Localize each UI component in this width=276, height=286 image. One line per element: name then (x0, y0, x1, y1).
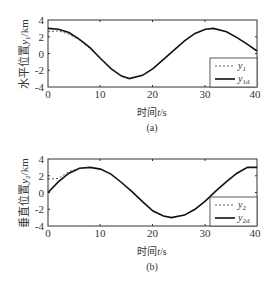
ytick-label: 4 (39, 153, 45, 165)
plot-a-ylabel: 水平位置y1/km (17, 19, 32, 89)
xtick-label: 20 (147, 227, 159, 239)
plot-b-ylabel: 垂直位置y2/km (17, 158, 32, 228)
plot-a-xlabel: 时间t/s (137, 106, 167, 118)
xtick-label: 10 (95, 88, 107, 100)
xtick-label: 30 (200, 88, 212, 100)
legend-box (210, 58, 257, 87)
plot-a: 4 2 0 -2 -4 0 10 20 30 40 (17, 14, 261, 134)
xtick-label: 20 (147, 88, 159, 100)
plot-b-xlabel: 时间t/s (137, 245, 167, 257)
xtick-label: 0 (45, 88, 51, 100)
ytick-label: -4 (35, 81, 45, 93)
figure: 4 2 0 -2 -4 0 10 20 30 40 (0, 0, 276, 286)
legend-box (210, 197, 257, 226)
ytick-label: -2 (35, 64, 44, 76)
ytick-label: 0 (39, 187, 45, 199)
xtick-label: 40 (250, 88, 262, 100)
ytick-label: 2 (39, 170, 45, 182)
series-y1 (48, 31, 129, 79)
ytick-label: -2 (35, 203, 44, 215)
plot-a-caption: (a) (146, 122, 157, 134)
xtick-label: 40 (250, 227, 262, 239)
ytick-label: 2 (39, 31, 45, 43)
plot-b-caption: (b) (146, 261, 158, 273)
plot-b-legend: y2 y2d (210, 197, 257, 226)
ytick-label: -4 (35, 220, 45, 232)
xtick-label: 0 (45, 227, 51, 239)
xtick-label: 30 (200, 227, 212, 239)
ytick-label: 0 (39, 48, 45, 60)
plot-b: 4 2 0 -2 -4 0 10 20 30 40 (17, 153, 261, 273)
plot-a-legend: y1 y1d (210, 58, 257, 87)
xtick-label: 10 (95, 227, 107, 239)
ytick-label: 4 (39, 14, 45, 26)
